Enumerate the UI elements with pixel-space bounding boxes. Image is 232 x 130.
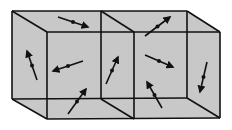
dipole-center-dot: [30, 64, 34, 68]
dipole-center-dot: [202, 75, 206, 79]
dipole-center-dot: [110, 69, 114, 73]
two-cube-dipole-diagram: [0, 0, 232, 130]
back-bottom-edge: [12, 98, 187, 99]
dipole-center-dot: [71, 20, 75, 24]
dipole-center-dot: [157, 59, 161, 63]
dipole-center-dot: [75, 100, 79, 104]
dipole-center-dot: [156, 25, 160, 29]
cube-faces: [12, 11, 220, 119]
dipole-center-dot: [66, 64, 70, 68]
dipole-center-dot: [153, 93, 157, 97]
